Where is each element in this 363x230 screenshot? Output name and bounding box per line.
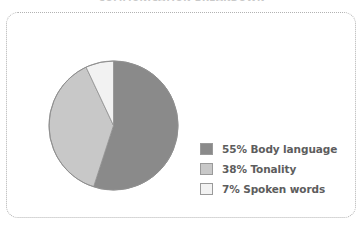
legend-swatch-tonality xyxy=(200,163,213,175)
pie-chart xyxy=(48,60,179,191)
legend-item-spoken-words: 7% Spoken words xyxy=(200,179,350,199)
pie-chart-svg xyxy=(48,60,179,191)
chart-title-clipped: COMMUNICATION BREAKDOWN xyxy=(0,0,363,5)
legend-label-tonality: 38% Tonality xyxy=(222,163,296,175)
legend-swatch-spoken-words xyxy=(200,183,213,195)
chart-title-text: COMMUNICATION BREAKDOWN xyxy=(98,0,265,3)
pie-slice-group xyxy=(49,61,178,190)
legend-item-tonality: 38% Tonality xyxy=(200,159,350,179)
legend-item-body-language: 55% Body language xyxy=(200,139,350,159)
legend-label-spoken-words: 7% Spoken words xyxy=(222,183,325,195)
legend-swatch-body-language xyxy=(200,143,213,155)
legend-label-body-language: 55% Body language xyxy=(222,143,337,155)
chart-legend: 55% Body language 38% Tonality 7% Spoken… xyxy=(200,139,350,199)
